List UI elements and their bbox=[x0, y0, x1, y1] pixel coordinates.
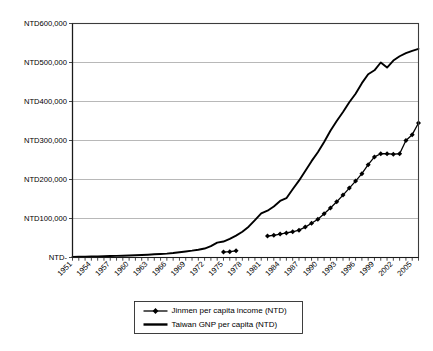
x-axis-tick-label: 1996 bbox=[339, 260, 357, 278]
x-axis-tick-label: 2002 bbox=[376, 260, 394, 278]
legend-label: Jinmen per capita income (NTD) bbox=[172, 306, 287, 315]
chart-container: 1951195419571960196319661969197219751978… bbox=[0, 0, 433, 351]
y-axis-tick-label: NTD200,000 bbox=[24, 175, 67, 184]
series-layer bbox=[73, 49, 422, 257]
x-axis-tick-label: 1972 bbox=[188, 260, 206, 278]
x-axis-tick-label: 1987 bbox=[282, 260, 300, 278]
series-taiwan bbox=[73, 49, 419, 257]
x-axis-tick-label: 1993 bbox=[320, 260, 338, 278]
y-axis-labels: NTD600,000NTD500,000NTD400,000NTD300,000… bbox=[24, 19, 68, 262]
x-axis-labels: 1951195419571960196319661969197219751978… bbox=[56, 260, 414, 278]
data-point-marker bbox=[296, 228, 301, 233]
data-point-marker bbox=[265, 234, 270, 239]
y-axis-tick-label: NTD100,000 bbox=[24, 214, 67, 223]
x-axis-tick-label: 1969 bbox=[169, 260, 187, 278]
line-chart: 1951195419571960196319661969197219751978… bbox=[0, 0, 433, 351]
x-axis-tick-label: 1999 bbox=[358, 260, 376, 278]
x-axis-tick-label: 1954 bbox=[74, 260, 92, 278]
data-point-marker bbox=[391, 152, 396, 157]
x-axis-tick-label: 1975 bbox=[207, 260, 225, 278]
x-axis-tick-label: 1960 bbox=[112, 260, 130, 278]
data-point-marker bbox=[397, 151, 402, 156]
y-axis-tick-label: NTD600,000 bbox=[24, 19, 67, 28]
series-line bbox=[223, 123, 418, 252]
x-axis-tick-label: 1963 bbox=[131, 260, 149, 278]
data-point-marker bbox=[284, 230, 289, 235]
y-axis-tick-label: NTD400,000 bbox=[24, 97, 67, 106]
chart-legend: Jinmen per capita income (NTD)Taiwan GNP… bbox=[135, 302, 303, 334]
x-axis-tick-label: 1957 bbox=[93, 260, 111, 278]
data-point-marker bbox=[378, 151, 383, 156]
x-axis-tick-label: 1990 bbox=[301, 260, 319, 278]
x-axis-tick-label: 1966 bbox=[150, 260, 168, 278]
x-axis-tick-label: 2005 bbox=[395, 260, 413, 278]
x-axis-tick-label: 1978 bbox=[225, 260, 243, 278]
data-point-marker bbox=[290, 229, 295, 234]
series-line bbox=[73, 49, 419, 257]
data-point-marker bbox=[234, 248, 239, 253]
data-point-marker bbox=[271, 233, 276, 238]
legend-label: Taiwan GNP per capita (NTD) bbox=[172, 320, 278, 329]
y-axis-tick-label: NTD300,000 bbox=[24, 136, 67, 145]
data-point-marker bbox=[385, 151, 390, 156]
y-axis-tick-label: NTD500,000 bbox=[24, 58, 67, 67]
data-point-marker bbox=[227, 249, 232, 254]
gridlines bbox=[73, 24, 419, 219]
x-axis-tick-label: 1984 bbox=[263, 260, 281, 278]
data-point-marker bbox=[221, 250, 226, 255]
data-point-marker bbox=[278, 232, 283, 237]
x-axis-tick-label: 1981 bbox=[244, 260, 262, 278]
y-axis-tick-label: NTD- bbox=[49, 253, 68, 262]
